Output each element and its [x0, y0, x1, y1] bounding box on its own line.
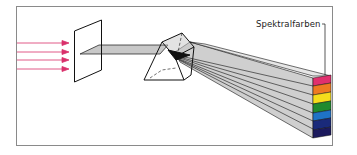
spectrum-label: Spektralfarben: [256, 19, 320, 29]
spectrum-color-block: [313, 75, 331, 138]
